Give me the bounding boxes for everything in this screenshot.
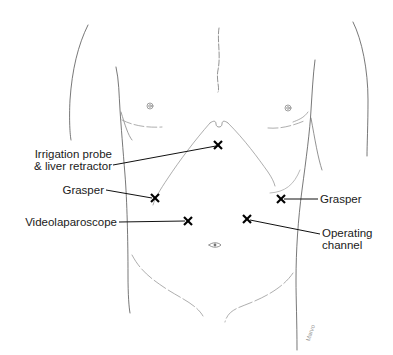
label-operating-line-1: Operating <box>322 227 373 239</box>
torso-illustration <box>0 0 393 355</box>
label-operating-channel: Operating channel <box>322 227 373 251</box>
label-irrigation-line-2: & liver retractor <box>20 160 112 172</box>
leader-grasper-left <box>106 190 152 198</box>
label-irrigation-probe: Irrigation probe & liver retractor <box>20 148 112 172</box>
label-grasper-right: Grasper <box>320 193 362 205</box>
port-marker-operating-channel-icon <box>243 215 251 223</box>
label-videolaparoscope: Videolaparoscope <box>10 216 117 228</box>
port-marker-grasper-right-icon <box>277 195 285 203</box>
port-marker-irrigation-icon <box>214 141 222 149</box>
leader-operating-channel <box>250 220 320 234</box>
leader-irrigation <box>113 146 216 165</box>
label-operating-line-2: channel <box>322 239 373 251</box>
label-irrigation-line-1: Irrigation probe <box>20 148 112 160</box>
leader-lines <box>106 146 320 234</box>
port-marker-videolaparoscope-icon <box>184 217 192 225</box>
port-placement-diagram: Irrigation probe & liver retractor Grasp… <box>0 0 393 355</box>
leader-videolaparoscope <box>119 221 185 222</box>
label-grasper-left: Grasper <box>40 184 104 196</box>
port-markers <box>151 141 285 225</box>
torso-outline <box>70 22 368 350</box>
